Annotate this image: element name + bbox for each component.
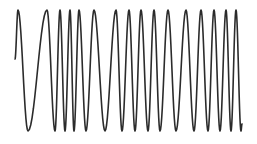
waveform-line — [15, 10, 242, 131]
waveform-chart — [0, 0, 257, 144]
